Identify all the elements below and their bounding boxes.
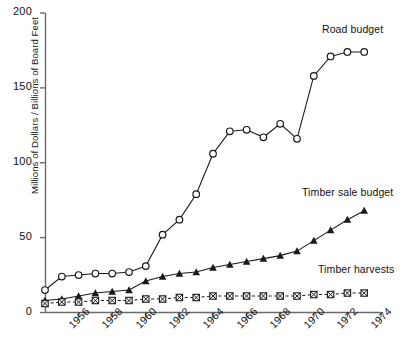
data-point-open-circle [193,191,200,198]
data-point-crossed-square [294,293,300,299]
data-point-open-circle [361,49,368,56]
data-point-crossed-square [311,291,317,297]
data-point-open-circle [243,127,250,134]
data-point-crossed-square [361,290,367,296]
data-point-open-circle [176,216,183,223]
data-point-crossed-square [344,290,350,296]
data-point-open-circle [327,53,334,60]
data-point-filled-triangle [293,247,301,254]
y-axis-title-text: Millions of Dollars / Billions of Board … [29,17,40,194]
data-point-crossed-square [260,293,266,299]
data-point-open-circle [92,270,99,277]
data-point-crossed-square [176,294,182,300]
data-point-open-circle [294,135,301,142]
data-point-open-circle [75,272,82,279]
data-point-crossed-square [109,297,115,303]
data-point-open-circle [143,263,150,270]
data-point-open-circle [344,49,351,56]
data-point-filled-triangle [125,286,133,293]
series-label-timber-sale-budget: Timber sale budget [302,186,393,198]
data-point-crossed-square [92,297,98,303]
data-point-crossed-square [75,299,81,305]
y-tick-label: 200 [2,5,32,17]
data-point-crossed-square [143,296,149,302]
data-point-crossed-square [59,299,65,305]
data-point-open-circle [277,121,284,128]
chart-container: Millions of Dollars / Billions of Board … [0,0,403,350]
y-tick-label: 100 [2,155,32,167]
data-point-open-circle [159,231,166,238]
data-point-crossed-square [327,291,333,297]
series-timber-harvests [42,290,368,307]
y-tick-label: 150 [2,80,32,92]
data-point-open-circle [42,287,49,294]
data-point-crossed-square [126,297,132,303]
data-point-crossed-square [243,293,249,299]
series-line [45,211,364,301]
series-label-timber-harvests: Timber harvests [318,263,394,275]
data-point-crossed-square [227,293,233,299]
series-label-road-budget: Road budget [322,23,383,35]
data-point-open-circle [109,270,116,277]
data-point-open-circle [126,269,133,276]
y-axis-title: Millions of Dollars / Billions of Board … [29,0,40,226]
y-tick-label: 50 [2,230,32,242]
data-point-open-circle [59,273,66,280]
data-point-crossed-square [193,294,199,300]
data-point-filled-triangle [344,216,352,223]
data-point-crossed-square [42,300,48,306]
data-point-open-circle [210,150,217,157]
line-chart-plot [0,0,403,350]
y-axis-ticks [40,13,45,313]
data-point-open-circle [311,73,318,80]
data-point-open-circle [260,134,267,141]
data-point-crossed-square [210,293,216,299]
data-point-open-circle [227,128,234,135]
data-point-filled-triangle [310,237,318,244]
data-point-filled-triangle [360,207,368,214]
data-point-crossed-square [159,296,165,302]
data-point-crossed-square [277,293,283,299]
series-road-budget [42,49,368,294]
series-timber-sale-budget [41,207,368,304]
data-point-filled-triangle [327,226,335,233]
series-line [45,52,364,290]
y-tick-label: 0 [2,305,32,317]
